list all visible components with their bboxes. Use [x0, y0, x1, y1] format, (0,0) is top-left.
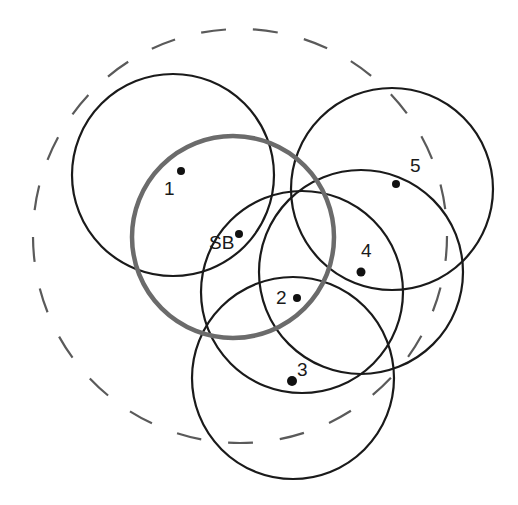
node-sb: SB	[209, 230, 243, 253]
node-label: 1	[164, 178, 175, 199]
node-2: 2	[276, 287, 301, 308]
node-dot	[177, 167, 185, 175]
node-dot	[235, 230, 243, 238]
node-dot	[392, 180, 400, 188]
node-dot	[287, 376, 297, 386]
range-circle-node-1	[72, 74, 274, 276]
node-dot	[357, 268, 366, 277]
node-label: 3	[297, 359, 308, 380]
node-3: 3	[287, 359, 308, 386]
range-circles	[72, 74, 493, 479]
node-label: 2	[276, 287, 287, 308]
node-5: 5	[392, 155, 421, 188]
node-label: SB	[209, 232, 234, 253]
network-range-diagram: 1 SB 2 3 4 5	[0, 0, 518, 505]
node-dot	[293, 294, 301, 302]
node-1: 1	[164, 167, 185, 199]
node-label: 5	[410, 155, 421, 176]
node-label: 4	[361, 240, 372, 261]
node-4: 4	[357, 240, 373, 277]
